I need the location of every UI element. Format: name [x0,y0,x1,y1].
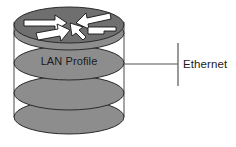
network-diagram: LAN Profile Ethernet [0,0,236,147]
cylinder-layer-3 [14,76,124,110]
diagram-canvas [0,0,236,147]
ethernet-link [124,43,178,86]
ethernet-label: Ethernet [183,57,227,71]
lan-profile-label: LAN Profile [14,55,124,68]
